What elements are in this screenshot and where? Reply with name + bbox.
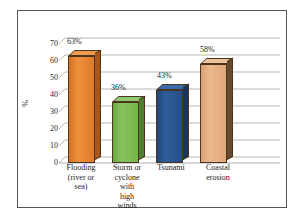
x-label-line: sea) xyxy=(56,182,106,192)
bar-side-face xyxy=(139,96,145,160)
bar-label-coastal-erosion: 58% xyxy=(200,46,215,54)
bar-front-face xyxy=(156,90,183,163)
x-label-line: erosion xyxy=(194,173,242,183)
x-label-line: (river or xyxy=(56,173,106,183)
bar-front-face xyxy=(68,56,95,163)
bar-front-face xyxy=(200,64,227,163)
x-label-line: Coastal xyxy=(194,163,242,173)
x-label-line: high xyxy=(104,192,150,202)
bar-side-face xyxy=(95,50,101,160)
x-label-line: Flooding xyxy=(56,163,106,173)
x-label-tsunami: Tsunami xyxy=(148,163,194,173)
bar-side-face xyxy=(183,84,189,160)
x-label-line: with xyxy=(104,182,150,192)
x-axis-labels: Flooding (river or sea) Storm or cyclone… xyxy=(18,163,288,209)
bar-side-face xyxy=(227,58,233,160)
chart-frame: 70 60 50 40 30 20 10 0 % 63% xyxy=(17,10,287,208)
bar-storm[interactable] xyxy=(112,102,139,163)
bar-label-flooding: 63% xyxy=(67,38,82,46)
bar-label-storm: 36% xyxy=(111,84,126,92)
x-label-storm: Storm or cyclone with high winds xyxy=(104,163,150,211)
bar-label-tsunami: 43% xyxy=(157,72,172,80)
x-label-flooding: Flooding (river or sea) xyxy=(56,163,106,192)
x-label-line: Storm or xyxy=(104,163,150,173)
bar-front-face xyxy=(112,102,139,163)
bar-coastal-erosion[interactable] xyxy=(200,64,227,163)
bar-flooding[interactable] xyxy=(68,56,95,163)
x-label-line: cyclone xyxy=(104,173,150,183)
bar-tsunami[interactable] xyxy=(156,90,183,163)
x-label-coastal-erosion: Coastal erosion xyxy=(194,163,242,182)
x-label-line: Tsunami xyxy=(148,163,194,173)
chart-plot-area: 70 60 50 40 30 20 10 0 % 63% xyxy=(18,11,288,209)
x-label-line: winds xyxy=(104,201,150,211)
